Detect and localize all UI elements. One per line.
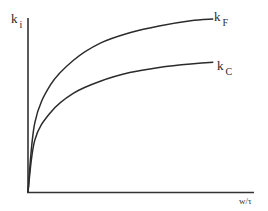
series-kf-label-main: k	[214, 9, 221, 24]
series-kc-line	[28, 62, 213, 192]
series-kf-line	[28, 19, 213, 192]
series-kf-label: kF	[214, 10, 228, 23]
chart-canvas: ki kF kC w/τ	[0, 0, 268, 211]
series-kc-label: kC	[217, 59, 232, 72]
series-kc-label-sub: C	[226, 66, 233, 77]
y-axis-label-sub: i	[20, 19, 23, 30]
series-kf-label-sub: F	[223, 17, 229, 28]
x-axis-label: w/τ	[239, 197, 252, 206]
plot-area	[0, 0, 268, 211]
y-axis-label: ki	[11, 12, 22, 25]
series-kc-label-main: k	[217, 58, 224, 73]
y-axis-label-main: k	[11, 11, 18, 26]
